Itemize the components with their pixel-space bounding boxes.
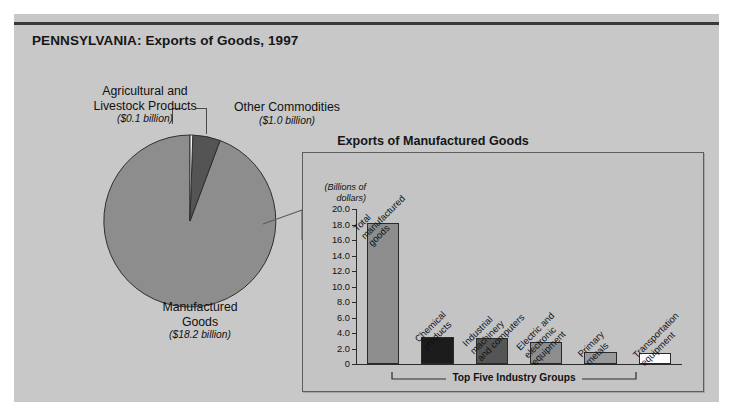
pie-label-manufactured-amount: ($18.2 billion) xyxy=(110,329,290,341)
x-axis-line xyxy=(356,364,682,365)
y-tick-mark xyxy=(352,240,356,241)
y-tick-label: 4.0 xyxy=(316,328,350,338)
y-tick-mark xyxy=(352,349,356,350)
y-tick-label: 2.0 xyxy=(316,344,350,354)
y-tick-label: 6.0 xyxy=(316,313,350,323)
y-tick-label: 14.0 xyxy=(316,251,350,261)
pie-label-other-commodities: Other Commodities ($1.0 billion) xyxy=(212,100,362,127)
pie-label-agricultural: Agricultural and Livestock Products ($0.… xyxy=(60,84,230,125)
y-tick-mark xyxy=(352,302,356,303)
y-tick-label: 18.0 xyxy=(316,220,350,230)
pie-label-manufactured: Manufactured Goods ($18.2 billion) xyxy=(110,300,290,341)
bar-plot-area: 02.04.06.08.010.012.014.016.018.020.0 To… xyxy=(302,152,702,390)
y-tick-mark xyxy=(352,333,356,334)
y-tick-label: 20.0 xyxy=(316,204,350,214)
y-tick-mark xyxy=(352,271,356,272)
y-tick-label: 16.0 xyxy=(316,235,350,245)
y-tick-mark xyxy=(352,318,356,319)
y-tick-label: 8.0 xyxy=(316,297,350,307)
pie-label-agricultural-line1: Agricultural and xyxy=(60,84,230,99)
pie-chart xyxy=(102,133,278,309)
y-tick-label: 10.0 xyxy=(316,282,350,292)
figure-root: PENNSYLVANIA: Exports of Goods, 1997 Agr… xyxy=(0,0,733,416)
pie-label-agricultural-line2: Livestock Products xyxy=(60,99,230,114)
page-title: PENNSYLVANIA: Exports of Goods, 1997 xyxy=(32,33,298,48)
pie-label-manufactured-line1: Manufactured xyxy=(110,300,290,315)
y-tick-mark xyxy=(352,209,356,210)
pie-label-other-amount: ($1.0 billion) xyxy=(212,115,362,127)
pie-label-agricultural-amount: ($0.1 billion) xyxy=(60,113,230,125)
y-tick-mark xyxy=(352,287,356,288)
y-tick-mark xyxy=(352,364,356,365)
y-tick-mark xyxy=(352,256,356,257)
pie-label-manufactured-line2: Goods xyxy=(110,315,290,330)
bracket-label: Top Five Industry Groups xyxy=(452,372,575,383)
panel-title: Exports of Manufactured Goods xyxy=(337,134,529,148)
pie-label-other-line1: Other Commodities xyxy=(212,100,362,115)
y-tick-label: 12.0 xyxy=(316,266,350,276)
title-rule xyxy=(14,22,719,25)
bar-category-label: Totalmanufacturedgoods xyxy=(352,186,415,249)
pie-svg xyxy=(102,133,278,309)
